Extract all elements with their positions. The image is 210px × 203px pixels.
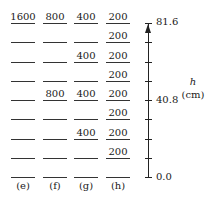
level-value: 1600 xyxy=(10,12,36,22)
axis-tick xyxy=(145,81,152,82)
level-line xyxy=(43,42,67,43)
axis-tick xyxy=(145,62,152,63)
axis-bottom-value: 0.0 xyxy=(156,172,172,182)
axis-tick xyxy=(145,139,152,140)
level-value: 800 xyxy=(42,89,68,99)
axis-tick xyxy=(145,42,152,43)
level-line xyxy=(106,177,130,178)
level-line xyxy=(43,100,67,101)
axis-mid-value: 40.8 xyxy=(156,95,178,105)
level-line xyxy=(74,62,98,63)
level-line xyxy=(106,100,130,101)
level-line xyxy=(74,139,98,140)
level-line xyxy=(106,139,130,140)
level-value: 200 xyxy=(105,147,131,157)
level-value: 200 xyxy=(105,108,131,118)
level-line xyxy=(74,177,98,178)
axis-arrow-icon xyxy=(145,24,151,33)
level-line xyxy=(74,100,98,101)
level-value: 400 xyxy=(73,12,99,22)
level-line xyxy=(43,23,67,24)
level-line xyxy=(74,119,98,120)
level-line xyxy=(11,119,35,120)
level-line xyxy=(106,158,130,159)
level-line xyxy=(11,62,35,63)
level-line xyxy=(74,42,98,43)
level-line xyxy=(106,23,130,24)
level-line xyxy=(106,119,130,120)
axis-tick xyxy=(145,158,152,159)
level-line xyxy=(11,158,35,159)
level-line xyxy=(11,23,35,24)
level-line xyxy=(11,100,35,101)
level-line xyxy=(11,139,35,140)
level-value: 800 xyxy=(42,12,68,22)
level-line xyxy=(74,23,98,24)
level-value: 400 xyxy=(73,128,99,138)
column-label: (h) xyxy=(105,181,131,191)
level-value: 400 xyxy=(73,89,99,99)
axis-tick xyxy=(145,177,152,178)
level-value: 200 xyxy=(105,89,131,99)
level-line xyxy=(43,177,67,178)
axis-variable-label: h xyxy=(178,77,208,87)
level-line xyxy=(74,158,98,159)
axis-top-value: 81.6 xyxy=(156,17,178,27)
level-value: 400 xyxy=(73,51,99,61)
level-line xyxy=(43,81,67,82)
level-line xyxy=(43,119,67,120)
axis-tick xyxy=(145,23,152,24)
level-value: 200 xyxy=(105,128,131,138)
level-line xyxy=(11,42,35,43)
axis-tick xyxy=(145,119,152,120)
level-line xyxy=(106,42,130,43)
level-line xyxy=(106,81,130,82)
level-value: 200 xyxy=(105,70,131,80)
level-line xyxy=(74,81,98,82)
level-line xyxy=(43,139,67,140)
column-label: (g) xyxy=(73,181,99,191)
level-line xyxy=(11,177,35,178)
level-value: 200 xyxy=(105,51,131,61)
column-label: (e) xyxy=(10,181,36,191)
level-line xyxy=(43,62,67,63)
level-value: 200 xyxy=(105,31,131,41)
level-line xyxy=(43,158,67,159)
axis-tick xyxy=(145,100,152,101)
level-line xyxy=(11,81,35,82)
level-line xyxy=(106,62,130,63)
column-label: (f) xyxy=(42,181,68,191)
axis-unit-label: (cm) xyxy=(178,90,208,100)
level-value: 200 xyxy=(105,12,131,22)
